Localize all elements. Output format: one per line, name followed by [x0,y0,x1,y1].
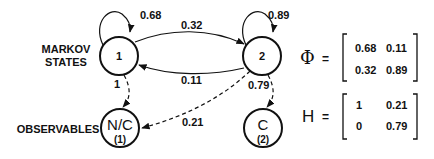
transition-1-to-2-prob: 0.32 [181,19,202,31]
state-1-label: 1 [116,50,122,62]
markov-states-label-line2: STATES [45,56,87,68]
observable-nc-label: N/C [107,116,133,133]
emission-s1-o1-prob: 1 [114,78,120,90]
h-equals: = [322,110,329,124]
self-loop-1-arrow [100,12,131,45]
observable-c-label: C [258,116,269,133]
state-2-label: 2 [259,50,265,62]
phi-left-bracket [343,34,347,81]
phi-equals: = [322,52,329,66]
self-loop-1-prob: 0.68 [140,9,161,21]
emission-s1-o1-arrow [123,75,129,107]
transition-2-to-1-arrow [139,65,244,74]
phi-cell-0-1: 0.11 [386,42,407,54]
h-cell-0-1: 0.21 [386,99,407,111]
transition-2-to-1-prob: 0.11 [181,74,202,86]
self-loop-2-prob: 0.89 [268,9,289,21]
emission-s2-o1-prob: 0.21 [182,116,203,128]
phi-right-bracket [413,34,417,81]
h-cell-1-0: 0 [356,120,362,132]
observables-label: OBSERVABLES [17,123,100,135]
emission-s2-o2-prob: 0.79 [248,79,269,91]
markov-states-label-line1: MARKOV [42,43,92,55]
hmm-diagram: MARKOV STATES OBSERVABLES 1 2 N/C (1) C … [0,0,434,159]
phi-cell-1-0: 0.32 [355,64,376,76]
h-left-bracket [343,94,347,139]
observable-c-sub: (2) [257,134,269,145]
h-cell-1-1: 0.79 [386,120,407,132]
transition-1-to-2-arrow [135,32,244,44]
observable-nc-sub: (1) [114,134,126,145]
phi-cell-1-1: 0.89 [386,64,407,76]
h-right-bracket [413,94,417,139]
h-symbol: H [302,107,314,126]
phi-cell-0-0: 0.68 [355,42,376,54]
h-cell-0-0: 1 [356,99,362,111]
phi-symbol: Φ [300,47,315,68]
